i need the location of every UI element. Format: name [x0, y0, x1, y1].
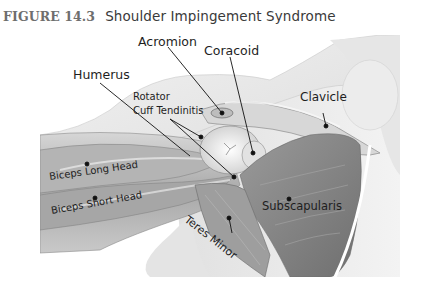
label-subscapularis: Subscapularis	[262, 199, 342, 213]
label-acromion: Acromion	[138, 34, 197, 49]
label-rotator-cuff-line2: Cuff Tendinitis	[133, 105, 203, 116]
figure-caption: Shoulder Impingement Syndrome	[105, 8, 335, 24]
label-coracoid: Coracoid	[204, 43, 259, 58]
label-humerus: Humerus	[73, 67, 130, 82]
label-clavicle: Clavicle	[300, 90, 347, 104]
shoulder-anatomy-illustration: Acromion Coracoid Humerus Rotator Cuff T…	[40, 35, 400, 277]
figure-title: FIGURE 14.3Shoulder Impingement Syndrome	[3, 8, 336, 24]
label-rotator-cuff-line1: Rotator	[133, 91, 170, 102]
figure-number: FIGURE 14.3	[3, 9, 95, 24]
